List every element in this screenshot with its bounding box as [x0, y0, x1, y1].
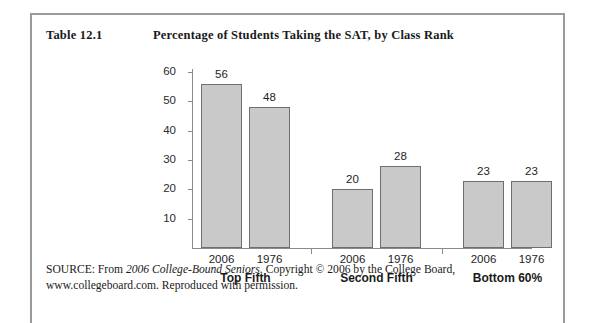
bar-value-label: 56 — [201, 69, 242, 81]
y-axis-tick — [188, 72, 193, 73]
y-axis-tick-label: 50 — [152, 95, 176, 107]
bar-value-label: 48 — [249, 92, 290, 104]
bar — [332, 189, 373, 248]
y-axis-tick-label: 60 — [152, 66, 176, 78]
bar-chart: 102030405060 562006481976202006281976232… — [158, 57, 548, 272]
x-axis-line — [192, 248, 532, 249]
x-axis-group-tick — [311, 249, 312, 254]
bar — [380, 166, 421, 248]
bar-value-label: 20 — [332, 174, 373, 186]
source-italic-title: 2006 College-Bound Seniors — [126, 263, 260, 276]
source-note: SOURCE: From 2006 College-Bound Seniors.… — [46, 262, 551, 295]
y-axis-tick — [188, 189, 193, 190]
figure-box: Table 12.1 Percentage of Students Taking… — [30, 13, 565, 323]
bar — [249, 107, 290, 248]
y-axis-tick-label: 40 — [152, 125, 176, 137]
bar-value-label: 23 — [463, 166, 504, 178]
bar — [463, 181, 504, 248]
y-axis-line — [192, 69, 193, 249]
bar-value-label: 28 — [380, 151, 421, 163]
caption: Table 12.1 Percentage of Students Taking… — [46, 25, 454, 43]
y-axis-tick-label: 10 — [152, 213, 176, 225]
x-axis-group-tick — [442, 249, 443, 254]
y-axis-tick-label: 30 — [152, 154, 176, 166]
y-axis-tick — [188, 101, 193, 102]
y-axis-tick — [188, 160, 193, 161]
source-prefix: SOURCE: From — [46, 263, 126, 276]
bar — [511, 181, 552, 248]
table-number: Table 12.1 — [46, 28, 102, 42]
bar — [201, 84, 242, 248]
y-axis-tick-label: 20 — [152, 183, 176, 195]
table-title: Percentage of Students Taking the SAT, b… — [153, 28, 454, 42]
y-axis-tick — [188, 219, 193, 220]
y-axis-tick — [188, 131, 193, 132]
bar-value-label: 23 — [511, 166, 552, 178]
